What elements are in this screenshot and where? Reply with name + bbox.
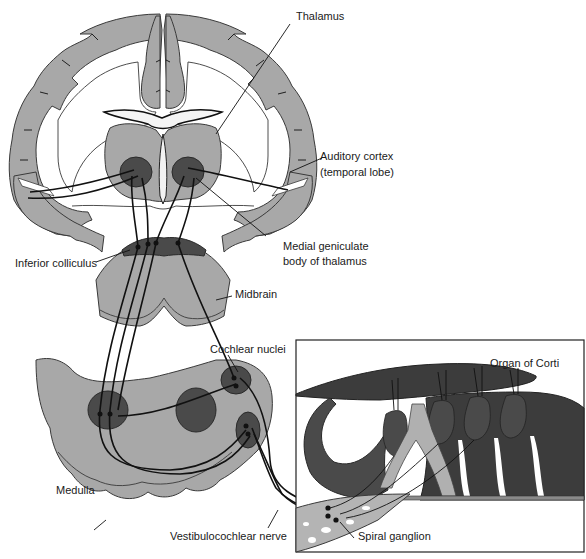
- label-inferior-colliculus: Inferior colliculus: [15, 257, 97, 270]
- label-medulla: Medulla: [56, 484, 95, 497]
- auditory-pathway-diagram: [0, 0, 586, 559]
- midbrain-section: [96, 238, 230, 327]
- label-medial-geniculate-line2: body of thalamus: [283, 255, 367, 268]
- label-thalamus: Thalamus: [296, 10, 344, 23]
- label-spiral-ganglion: Spiral ganglion: [358, 530, 431, 543]
- label-auditory-cortex-line2: (temporal lobe): [320, 166, 394, 179]
- label-organ-of-corti: Organ of Corti: [490, 357, 559, 370]
- label-midbrain: Midbrain: [235, 288, 277, 301]
- label-auditory-cortex-line1: Auditory cortex: [320, 150, 393, 163]
- label-vestibulocochlear-nerve: Vestibulocochlear nerve: [170, 530, 287, 543]
- label-medial-geniculate-line1: Medial geniculate: [283, 240, 369, 253]
- cerebrum-section: [9, 14, 317, 252]
- label-cochlear-nuclei: Cochlear nuclei: [210, 343, 286, 356]
- medulla-section: [36, 359, 272, 499]
- organ-of-corti-inset: [296, 340, 584, 552]
